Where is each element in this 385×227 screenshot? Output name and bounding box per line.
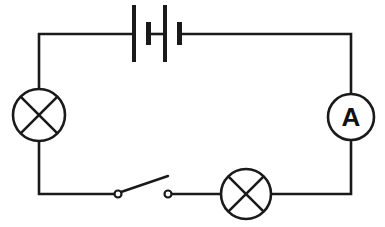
lamp-left-icon — [13, 89, 65, 141]
lamp-bottom-icon — [221, 169, 271, 219]
wire-top-left — [39, 34, 134, 89]
switch-contact-right — [165, 191, 172, 198]
battery-plate-long-1 — [132, 5, 136, 62]
battery-plate-short-1 — [146, 22, 151, 45]
switch-lever — [121, 176, 168, 192]
switch-icon — [115, 176, 172, 198]
wire-bottom-left — [39, 141, 115, 194]
wire-right — [271, 140, 351, 194]
wire-top-right — [179, 34, 351, 94]
battery-plate-short-2 — [177, 22, 182, 45]
switch-contact-left — [115, 191, 122, 198]
circuit-diagram: A — [0, 0, 385, 227]
battery-plate-long-2 — [163, 5, 167, 62]
ammeter-icon: A — [328, 94, 374, 140]
ammeter-label: A — [342, 102, 361, 132]
wires — [39, 34, 351, 194]
